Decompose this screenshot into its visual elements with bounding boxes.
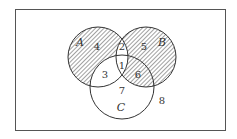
set-label-c: C xyxy=(117,101,126,114)
region-label-7: 7 xyxy=(119,85,125,96)
region-label-8: 8 xyxy=(159,95,165,106)
set-label-a: A xyxy=(75,36,84,49)
region-label-6: 6 xyxy=(135,69,141,80)
region-label-2: 2 xyxy=(119,41,125,52)
venn-diagram: 1 2 3 4 5 6 7 8 A B C xyxy=(0,0,237,139)
region-label-4: 4 xyxy=(94,41,100,52)
region-label-1: 1 xyxy=(119,60,125,71)
region-label-5: 5 xyxy=(141,41,147,52)
set-label-b: B xyxy=(157,36,166,49)
region-label-3: 3 xyxy=(102,69,108,80)
